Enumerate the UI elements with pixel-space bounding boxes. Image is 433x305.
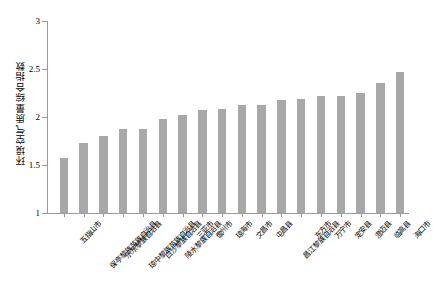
x-tick-label: 屯昌县 xyxy=(272,218,295,241)
x-tick-label: 定安县 xyxy=(351,218,374,241)
x-tick-label: 文昌市 xyxy=(252,218,275,241)
x-tick-label: 临高县 xyxy=(390,218,413,241)
x-tick-label: 澄迈县 xyxy=(371,218,394,241)
x-tick-label: 琼海市 xyxy=(232,218,255,241)
x-tick-label: 海口市 xyxy=(410,218,433,241)
x-tick-label: 五指山市 xyxy=(76,218,104,246)
